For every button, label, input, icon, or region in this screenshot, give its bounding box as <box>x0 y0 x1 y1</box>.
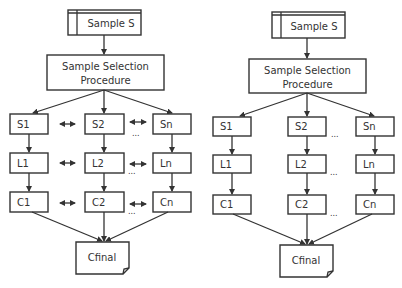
final-label: Cfinal <box>292 255 321 266</box>
cn-label: Cn <box>363 199 376 210</box>
cn-label: Cn <box>160 197 173 208</box>
source-label: Sample S <box>290 21 337 32</box>
c-row: C1 C2 Cn <box>10 192 191 212</box>
l-row: L1 L2 Ln <box>10 153 191 173</box>
s-row: S1 S2 Sn <box>213 117 394 136</box>
final-label: Cfinal <box>88 252 117 263</box>
final-node: Cfinal <box>280 245 333 277</box>
arrow-cn-to-final <box>106 212 168 241</box>
procedure-label-line1: Sample Selection <box>264 65 351 76</box>
s1-label: S1 <box>17 119 30 130</box>
ellipsis-s-row: ... <box>132 129 140 138</box>
l2-label: L2 <box>92 158 104 169</box>
ellipsis-c-row: ... <box>128 207 136 216</box>
l1-label: L1 <box>220 159 232 170</box>
source-node: Sample S <box>272 12 345 38</box>
procedure-label-line2: Procedure <box>282 79 332 90</box>
source-label: Sample S <box>87 18 134 29</box>
procedure-node: Sample Selection Procedure <box>249 59 366 93</box>
s2-label: S2 <box>92 119 105 130</box>
left-flowchart: Sample S Sample Selection Procedure S1 S… <box>10 10 191 274</box>
arrow-procedure-to-s1 <box>33 90 104 113</box>
ellipsis-l-row: ... <box>330 168 338 177</box>
c1-label: C1 <box>220 199 233 210</box>
c2-label: C2 <box>295 199 308 210</box>
s1-label: S1 <box>220 121 233 132</box>
l2-label: L2 <box>295 159 307 170</box>
arrow-procedure-to-sn <box>307 93 374 116</box>
ln-label: Ln <box>363 159 375 170</box>
sn-label: Sn <box>160 119 173 130</box>
procedure-label-line1: Sample Selection <box>62 61 149 72</box>
arrow-cn-to-final <box>309 214 372 244</box>
l-row: L1 L2 Ln <box>213 155 394 173</box>
c2-label: C2 <box>92 197 105 208</box>
s-row: S1 S2 Sn <box>10 114 191 134</box>
procedure-node: Sample Selection Procedure <box>47 55 164 90</box>
ellipsis-c-row: ... <box>330 209 338 218</box>
diagram-canvas: Sample S Sample Selection Procedure S1 S… <box>0 0 402 288</box>
arrow-procedure-to-s1 <box>240 93 307 116</box>
ellipsis-s-row: ... <box>331 130 339 139</box>
ln-label: Ln <box>160 158 172 169</box>
c1-label: C1 <box>17 197 30 208</box>
s2-label: S2 <box>295 121 308 132</box>
procedure-label-line2: Procedure <box>80 75 130 86</box>
c-row: C1 C2 Cn <box>213 195 394 214</box>
source-node: Sample S <box>68 10 141 35</box>
sn-label: Sn <box>363 121 376 132</box>
l1-label: L1 <box>17 158 29 169</box>
ellipsis-l-row: ... <box>128 167 136 176</box>
arrow-procedure-to-sn <box>104 90 172 113</box>
final-node: Cfinal <box>76 242 129 274</box>
arrow-c1-to-final <box>32 212 102 241</box>
arrow-c1-to-final <box>233 214 305 244</box>
right-flowchart: Sample S Sample Selection Procedure S1 S… <box>213 12 394 277</box>
